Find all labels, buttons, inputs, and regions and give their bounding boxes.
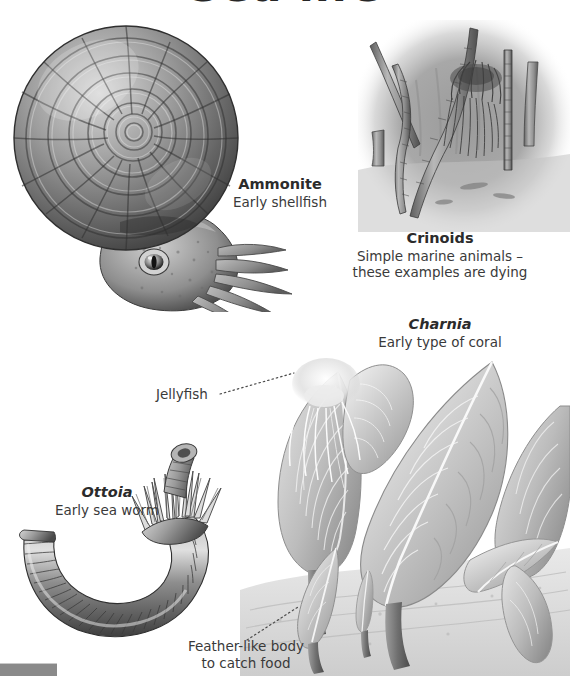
annotation-feather-line-1: Feather-like body [188,638,304,654]
crinoids-description: Simple marine animals – [310,248,570,264]
ammonite-name: Ammonite [180,176,380,194]
caption-ottoia: Ottoia Early sea worm [22,484,192,518]
charnia-illustration [240,352,570,676]
annotation-jellyfish-label: Jellyfish [156,386,208,403]
crinoids-description-2: these examples are dying [310,264,570,280]
ottoia-name: Ottoia [22,484,192,502]
ottoia-illustration [18,440,253,645]
caption-ammonite: Ammonite Early shellfish [180,176,380,210]
crinoids-illustration [358,20,570,232]
ammonite-description: Early shellfish [180,194,380,210]
annotation-feather-line-2: to catch food [202,655,291,671]
caption-crinoids: Crinoids Simple marine animals – these e… [310,230,570,281]
crinoids-name: Crinoids [310,230,570,248]
ammonite-shell [14,23,238,250]
charnia-description: Early type of coral [340,334,540,350]
annotation-feather-label: Feather-like body to catch food [186,638,306,672]
caption-charnia: Charnia Early type of coral [340,316,540,350]
charnia-name: Charnia [340,316,540,334]
page-title: Sea life [0,0,570,11]
ottoia-description: Early sea worm [22,502,192,518]
sea-life-page: Sea life [0,0,570,676]
corner-bar [0,663,57,676]
ammonite-illustration [2,22,302,312]
